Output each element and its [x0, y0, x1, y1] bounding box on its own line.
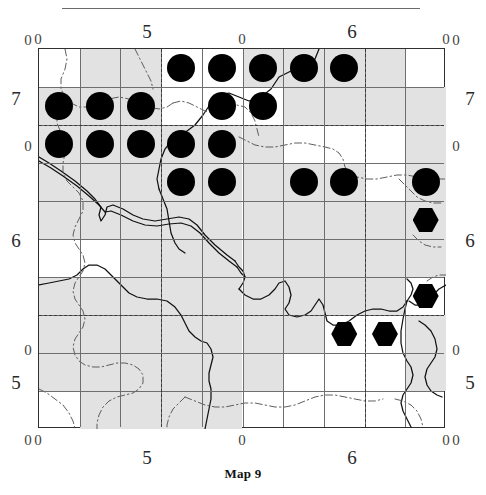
map-symbol-circle — [127, 92, 155, 120]
map-symbol-hexagon — [331, 321, 357, 347]
map-symbol-circle — [86, 130, 114, 158]
map-symbol-hexagon — [413, 283, 439, 309]
distribution-map — [38, 48, 445, 428]
axis-left-minor-2: 0 — [24, 343, 32, 358]
map-symbol-circle — [167, 54, 195, 82]
map-symbol-circle — [208, 168, 236, 196]
axis-top-minor-1: 0 — [238, 32, 246, 47]
map-symbol-circle — [167, 168, 195, 196]
axis-bottom-major-0: 5 — [142, 448, 152, 467]
axis-right-minor-1: 0 — [452, 139, 460, 154]
map-symbol-circle — [208, 54, 236, 82]
axis-left-minor-0: 0 — [24, 33, 32, 48]
axis-bottom-major-1: 6 — [347, 448, 357, 467]
map-symbol-circle — [45, 130, 73, 158]
map-symbol-circle — [330, 54, 358, 82]
map-symbol-circle — [86, 92, 114, 120]
symbol-layer — [39, 49, 444, 427]
map-symbol-circle — [412, 168, 440, 196]
axis-left-minor-1: 0 — [24, 139, 32, 154]
axis-top-minor-2: 0 — [442, 32, 450, 47]
map-symbol-circle — [249, 54, 277, 82]
axis-bottom-minor-2: 0 — [442, 433, 450, 448]
axis-top-major-0: 5 — [142, 22, 152, 41]
map-symbol-circle — [45, 92, 73, 120]
map-symbol-circle — [249, 92, 277, 120]
map-symbol-circle — [127, 130, 155, 158]
map-symbol-circle — [290, 54, 318, 82]
map-symbol-circle — [208, 130, 236, 158]
map-symbol-circle — [290, 168, 318, 196]
axis-right-major-0: 7 — [465, 89, 475, 108]
axis-left-major-1: 6 — [11, 231, 21, 250]
axis-right-major-2: 5 — [465, 373, 475, 392]
axis-bottom-minor-0: 0 — [34, 433, 42, 448]
axis-left-minor-3: 0 — [24, 433, 32, 448]
map-symbol-hexagon — [372, 321, 398, 347]
axis-right-minor-0: 0 — [452, 33, 460, 48]
axis-left-major-2: 5 — [11, 373, 21, 392]
axis-right-minor-2: 0 — [452, 343, 460, 358]
top-divider-rule — [62, 8, 420, 9]
map-symbol-hexagon — [413, 207, 439, 233]
axis-right-minor-3: 0 — [452, 433, 460, 448]
axis-left-major-0: 7 — [11, 89, 21, 108]
map-symbol-circle — [167, 130, 195, 158]
map-symbol-circle — [208, 92, 236, 120]
axis-top-minor-0: 0 — [34, 32, 42, 47]
map-symbol-circle — [330, 168, 358, 196]
axis-bottom-minor-1: 0 — [238, 433, 246, 448]
axis-top-major-1: 6 — [347, 22, 357, 41]
map-caption: Map 9 — [0, 466, 486, 482]
axis-right-major-1: 6 — [465, 231, 475, 250]
